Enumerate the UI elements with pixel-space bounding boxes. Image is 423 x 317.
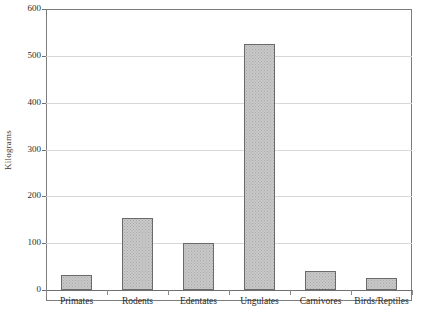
x-tick-mark-1 (107, 290, 108, 295)
x-tick-mark-0 (46, 290, 47, 295)
bar-chart: Kilograms 0100200300400500600 PrimatesRo… (0, 0, 423, 317)
y-axis-title-text: Kilograms (3, 130, 13, 170)
x-tick-mark-5 (351, 290, 352, 295)
x-tick-mark-4 (290, 290, 291, 295)
y-tick-label-500: 500 (16, 50, 41, 60)
x-tick-mark-2 (168, 290, 169, 295)
plot-area (46, 9, 412, 290)
x-tick-label-birds-reptiles: Birds/Reptiles (351, 296, 412, 306)
gridline-200 (46, 196, 412, 197)
y-axis-title: Kilograms (0, 0, 16, 300)
y-tick-label-200: 200 (16, 190, 41, 200)
bar-primates (61, 275, 93, 290)
gridline-100 (46, 243, 412, 244)
bar-carnivores (305, 271, 337, 290)
y-tick-mark-200 (42, 196, 46, 197)
bar-ungulates (244, 44, 276, 290)
x-tick-label-carnivores: Carnivores (290, 296, 351, 306)
x-tick-mark-6 (412, 290, 413, 295)
y-tick-mark-500 (42, 56, 46, 57)
gridline-600 (46, 9, 412, 10)
gridline-500 (46, 56, 412, 57)
x-tick-label-primates: Primates (46, 296, 107, 306)
x-tick-label-edentates: Edentates (168, 296, 229, 306)
y-tick-mark-300 (42, 150, 46, 151)
x-tick-label-rodents: Rodents (107, 296, 168, 306)
gridline-400 (46, 103, 412, 104)
x-tick-mark-3 (229, 290, 230, 295)
gridline-300 (46, 150, 412, 151)
y-tick-label-0: 0 (16, 284, 41, 294)
bar-birds-reptiles (366, 278, 398, 290)
y-tick-mark-100 (42, 243, 46, 244)
bar-edentates (183, 243, 215, 290)
bar-rodents (122, 218, 154, 290)
y-tick-label-400: 400 (16, 97, 41, 107)
y-tick-label-100: 100 (16, 237, 41, 247)
x-tick-label-ungulates: Ungulates (229, 296, 290, 306)
y-tick-label-600: 600 (16, 3, 41, 13)
y-tick-label-300: 300 (16, 144, 41, 154)
y-tick-mark-600 (42, 9, 46, 10)
y-tick-mark-400 (42, 103, 46, 104)
